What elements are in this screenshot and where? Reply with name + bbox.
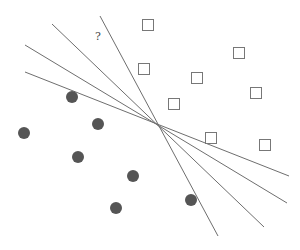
separating-line	[25, 72, 289, 176]
square-class-points	[139, 20, 271, 151]
circle-point	[72, 151, 84, 163]
square-point	[260, 140, 271, 151]
square-point	[139, 64, 150, 75]
square-point	[143, 20, 154, 31]
square-point	[251, 88, 262, 99]
circle-point	[110, 202, 122, 214]
diagram-canvas: ?	[0, 0, 300, 250]
separating-lines	[25, 16, 289, 236]
square-point	[192, 73, 203, 84]
circle-point	[66, 91, 78, 103]
circle-point	[127, 170, 139, 182]
circle-point	[185, 194, 197, 206]
query-label: ?	[95, 30, 101, 43]
square-point	[206, 133, 217, 144]
square-point	[234, 48, 245, 59]
circle-point	[18, 127, 30, 139]
circle-point	[92, 118, 104, 130]
separating-lines-diagram	[0, 0, 300, 250]
square-point	[169, 99, 180, 110]
